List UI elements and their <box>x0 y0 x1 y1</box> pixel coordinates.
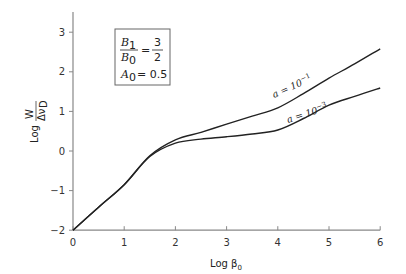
y-tick-label: −2 <box>50 225 65 236</box>
curve-labels: a = 10−1a = 10−3 <box>270 72 329 125</box>
y-tick-label: 1 <box>59 106 65 117</box>
curve-series-1 <box>73 88 380 230</box>
x-tick-label: 5 <box>326 237 332 248</box>
box-three: 3 <box>154 36 161 49</box>
y-tick-label: −1 <box>50 185 65 196</box>
y-tick-label: 0 <box>59 146 65 157</box>
parameter-box: B1 B0 = 3 2 A0= 0.5 <box>115 29 170 85</box>
svg-text:Δν: Δν <box>36 108 47 121</box>
x-tick-label: 1 <box>121 237 127 248</box>
chart: −2−101230123456 a = 10−1a = 10−3 B1 B0 =… <box>0 0 406 274</box>
box-two: 2 <box>154 51 161 64</box>
svg-text:D: D <box>38 100 49 108</box>
x-tick-label: 2 <box>172 237 178 248</box>
x-axis-title: Log β0 <box>210 258 242 272</box>
svg-text:W: W <box>24 109 35 119</box>
x-tick-label: 0 <box>70 237 76 248</box>
x-tick-label: 3 <box>223 237 229 248</box>
curve-label-0: a = 10−1 <box>270 72 313 100</box>
y-tick-label: 3 <box>59 27 65 38</box>
box-equals: = <box>141 44 150 57</box>
x-tick-label: 6 <box>377 237 383 248</box>
axes: −2−101230123456 <box>50 12 383 248</box>
y-axis-title: Log W Δν D <box>24 100 49 143</box>
x-tick-label: 4 <box>275 237 281 248</box>
y-tick-label: 2 <box>59 66 65 77</box>
svg-text:Log: Log <box>29 125 40 143</box>
curve-label-1: a = 10−3 <box>285 100 329 124</box>
